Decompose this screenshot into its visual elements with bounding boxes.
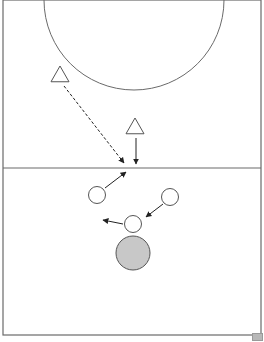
goal-area-arc <box>44 0 224 90</box>
court-diagram <box>0 0 264 342</box>
corner-resize-icon <box>252 333 263 341</box>
move-up-arrow-icon <box>105 172 126 188</box>
ball-icon <box>116 236 150 270</box>
pass-dashed-arrow-icon <box>64 86 124 163</box>
triangle-2-attacker-icon <box>126 118 144 134</box>
circle-1-defender-icon <box>89 187 106 204</box>
move-left-arrow-icon <box>103 220 123 224</box>
circle-2-defender-icon <box>162 189 179 206</box>
triangle-1-attacker-icon <box>51 66 69 82</box>
move-diag-arrow-icon <box>146 204 163 217</box>
circle-3-defender-icon <box>125 216 142 233</box>
